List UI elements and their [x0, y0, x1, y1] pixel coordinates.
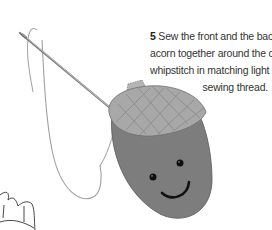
instruction-line-3: whipstitch in matching light brown: [150, 62, 268, 79]
needle-icon: [20, 33, 115, 112]
right-eye: [177, 160, 184, 167]
step-number: 5: [150, 30, 156, 42]
left-eye: [150, 174, 157, 181]
thread: [27, 28, 37, 92]
step-instruction: 5 Sew the front and the back of the acor…: [150, 28, 268, 96]
hand-sketch: [0, 192, 35, 230]
thread-long: [42, 40, 101, 199]
acorn: [109, 80, 212, 218]
instruction-line-4: sewing thread.: [150, 79, 268, 96]
instruction-line-2: acorn together around the cap using: [150, 45, 268, 62]
instruction-line-1: 5 Sew the front and the back of the: [150, 28, 268, 45]
